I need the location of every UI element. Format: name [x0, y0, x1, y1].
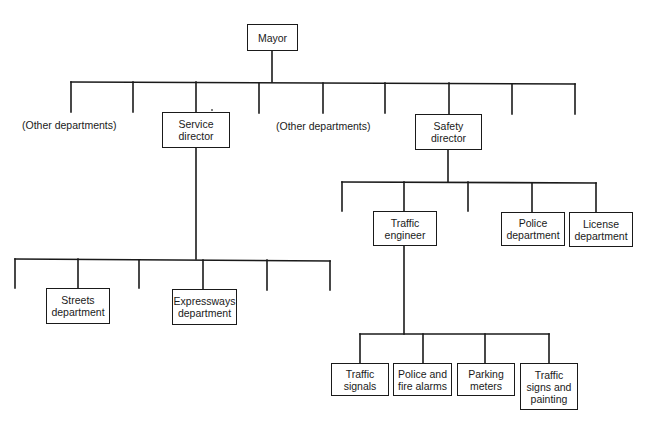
license-department-box: License department	[569, 212, 633, 247]
other-departments-left-label: (Other departments)	[22, 119, 117, 131]
print-speck	[211, 109, 213, 111]
police-department-box: Police department	[501, 212, 565, 246]
connector-line	[15, 259, 330, 261]
streets-department-box: Streets department	[46, 288, 110, 324]
traffic-engineer-box: Traffic engineer	[373, 211, 437, 246]
traffic-signals-box: Traffic signals	[331, 363, 389, 396]
police-and-fire-alarms-box: Police and fire alarms	[393, 363, 452, 396]
other-departments-middle-label: (Other departments)	[276, 120, 371, 132]
org-chart: Mayor Service director Safety director S…	[0, 0, 653, 423]
traffic-signs-and-painting-box: Traffic signs and painting	[520, 363, 578, 410]
parking-meters-box: Parking meters	[457, 363, 515, 396]
connector-line	[342, 182, 596, 183]
mayor-box: Mayor	[247, 24, 298, 51]
safety-director-box: Safety director	[415, 114, 482, 150]
expressways-department-box: Expressways department	[172, 289, 237, 325]
service-director-box: Service director	[162, 112, 230, 148]
